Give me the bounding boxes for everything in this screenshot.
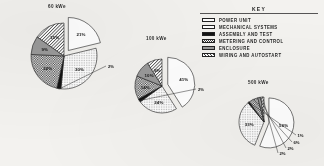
legend-label: ENCLOSURE bbox=[219, 45, 250, 50]
legend-swatch-check bbox=[202, 39, 215, 44]
legend-swatch-dots bbox=[202, 25, 215, 30]
legend-label: MECHANICAL SYSTEMS bbox=[219, 25, 278, 30]
slice-label: 2% bbox=[288, 146, 294, 151]
legend-swatch-black bbox=[202, 32, 215, 37]
legend-title: KEY bbox=[196, 6, 322, 12]
legend-row: ENCLOSURE bbox=[202, 45, 322, 51]
slice-label: 9% bbox=[154, 68, 161, 73]
pie-chart-60kwe: 60 kWe 21%30%2%22%9%15% bbox=[6, 4, 126, 108]
slice-label: 2% bbox=[198, 87, 204, 92]
slice-label: 22% bbox=[43, 66, 52, 71]
legend-row: ASSEMBLY AND TEST bbox=[202, 31, 322, 37]
legend-swatch-diag bbox=[202, 53, 215, 58]
legend-row: POWER UNIT bbox=[202, 17, 322, 23]
slice-label: 10% bbox=[145, 73, 154, 78]
pie-svg-500kwe: 56%33%1%6%2%2% bbox=[218, 80, 324, 166]
slice-label: 14% bbox=[141, 85, 150, 90]
slice-label: 15% bbox=[50, 35, 59, 40]
pie-chart-500kwe: 500 kWe 56%33%1%6%2%2% bbox=[218, 80, 324, 166]
pie-title-500kwe: 500 kWe bbox=[248, 80, 269, 85]
legend-swatch-gray bbox=[202, 46, 215, 51]
legend-row: MECHANICAL SYSTEMS bbox=[202, 24, 322, 30]
legend-row: WIRING AND AUTOSTART bbox=[202, 52, 322, 58]
slice-label: 30% bbox=[75, 67, 84, 72]
slice-label: 9% bbox=[41, 47, 48, 52]
pie-chart-figure: 60 kWe 21%30%2%22%9%15% 100 kWe 41%24%2%… bbox=[0, 0, 324, 166]
legend-divider bbox=[200, 13, 318, 14]
slice-label: 24% bbox=[154, 100, 163, 105]
legend-label: METERING AND CONTROL bbox=[219, 38, 283, 43]
legend-row: METERING AND CONTROL bbox=[202, 38, 322, 44]
legend-key: KEY POWER UNITMECHANICAL SYSTEMSASSEMBLY… bbox=[196, 6, 322, 59]
slice-label: 21% bbox=[76, 32, 85, 37]
legend-label: WIRING AND AUTOSTART bbox=[219, 52, 281, 57]
legend-swatch-white bbox=[202, 18, 215, 23]
legend-label: POWER UNIT bbox=[219, 18, 251, 23]
pie-title-100kwe: 100 kWe bbox=[146, 36, 167, 41]
slice-label: 2% bbox=[280, 151, 286, 156]
legend-label: ASSEMBLY AND TEST bbox=[219, 32, 273, 37]
pie-title-60kwe: 60 kWe bbox=[48, 4, 66, 9]
slice-label: 33% bbox=[245, 122, 254, 127]
slice-label: 6% bbox=[294, 140, 300, 145]
pie-svg-60kwe: 21%30%2%22%9%15% bbox=[6, 4, 126, 108]
slice-label: 1% bbox=[298, 133, 304, 138]
slice-label: 41% bbox=[179, 77, 188, 82]
